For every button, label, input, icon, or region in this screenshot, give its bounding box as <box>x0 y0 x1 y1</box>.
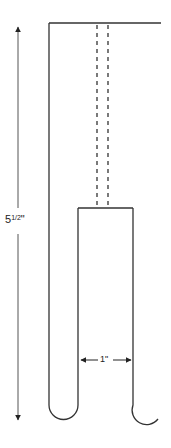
height-unit: " <box>21 213 25 225</box>
dashed-fold-lines <box>97 25 108 207</box>
right-strip-outline <box>132 208 158 425</box>
pattern-diagram <box>0 0 171 448</box>
height-fraction: 1/2 <box>11 214 21 221</box>
left-strip-outline <box>49 23 78 419</box>
height-dimension-label: 51/2" <box>5 211 25 226</box>
width-dimension-label: 1" <box>99 354 109 365</box>
